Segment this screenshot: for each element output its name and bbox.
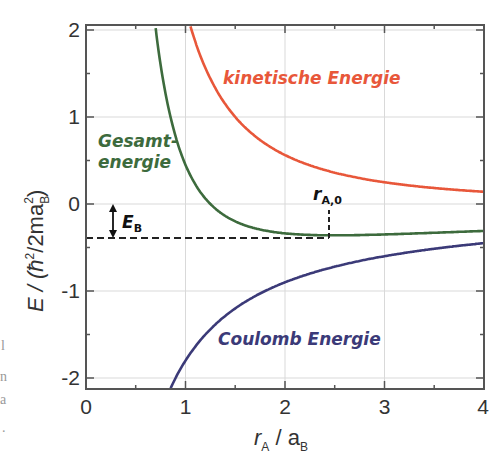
y-tick-label: 0 [68,192,80,215]
page-margin-marks: l n a . [0,338,7,435]
y-tick-label: 2 [68,18,80,41]
binding-energy-label: EB [122,212,142,235]
x-tick-label: 2 [279,395,291,418]
y-axis-title: E / (ħ2/2maB2) [22,190,52,312]
coulomb-energy-curve [171,243,484,388]
x-tick-label: 4 [477,395,489,418]
energy-chart: 2 1 0 -1 -2 0 1 2 3 4 rA / aB E / (ħ2/2m… [0,0,502,464]
y-tick-label: 1 [68,105,80,128]
equilibrium-radius-label: rA,0 [313,184,342,207]
y-tick-label: -1 [61,279,80,302]
x-tick-label: 3 [379,395,391,418]
x-tick-label: 0 [80,395,92,418]
svg-text:.: . [2,420,6,435]
kinetic-energy-curve [191,26,485,191]
svg-text:n: n [0,369,7,384]
y-tick-labels: 2 1 0 -1 -2 [61,18,80,389]
x-tick-labels: 0 1 2 3 4 [80,395,489,418]
y-tick-label: -2 [61,366,80,389]
coulomb-energy-label: Coulomb Energie [218,329,381,349]
svg-text:a: a [0,392,7,407]
total-energy-label-line2: energie [98,152,171,172]
x-tick-label: 1 [180,395,192,418]
total-energy-label-line1: Gesamt- [98,131,178,151]
svg-text:l: l [1,338,5,353]
eb-double-arrow-icon [109,204,117,238]
x-axis-title: rA / aB [254,425,308,454]
kinetic-energy-label: kinetische Energie [223,68,401,88]
